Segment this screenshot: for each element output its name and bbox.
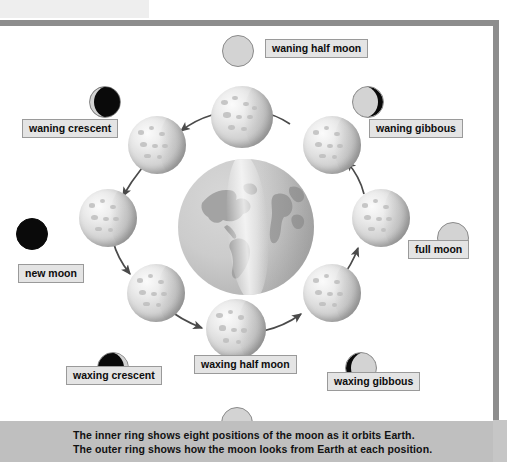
earth-nightside — [257, 159, 314, 295]
label-waning-crescent[interactable]: waning crescent — [22, 119, 118, 138]
orbit-moon-right — [352, 189, 410, 247]
moon-phases-figure: waning half moon waning crescent new moo… — [0, 0, 507, 462]
label-waning-gibbous[interactable]: waning gibbous — [369, 119, 463, 138]
earth-globe — [178, 159, 314, 295]
phase-icon-waning-gibbous — [352, 86, 384, 118]
orbit-moon-left — [79, 189, 137, 247]
label-waxing-half-moon[interactable]: waxing half moon — [194, 355, 297, 374]
orbit-moon-bottom-left — [127, 264, 185, 322]
orbit-moon-top-left — [128, 116, 186, 174]
label-new-moon[interactable]: new moon — [18, 264, 84, 283]
orbit-moon-top — [211, 86, 273, 148]
phase-icon-waning-crescent — [89, 86, 121, 118]
figure-caption: The inner ring shows eight positions of … — [73, 428, 433, 456]
label-full-moon[interactable]: full moon — [408, 240, 469, 259]
orbit-moon-bottom-right — [303, 264, 361, 322]
label-waxing-crescent[interactable]: waxing crescent — [66, 366, 162, 385]
phase-icon-new-moon — [16, 218, 48, 250]
figure-frame-right-lower — [493, 420, 507, 462]
label-waning-half-moon[interactable]: waning half moon — [265, 39, 368, 58]
orbit-moon-bottom — [206, 299, 266, 359]
page-top-left-band — [0, 0, 149, 18]
orbit-moon-top-right — [303, 116, 361, 174]
phase-icon-waning-half-moon — [222, 35, 254, 67]
figure-frame-right — [493, 20, 499, 440]
label-waxing-gibbous[interactable]: waxing gibbous — [327, 372, 420, 391]
diagram-stage: waning half moon waning crescent new moo… — [0, 26, 493, 421]
